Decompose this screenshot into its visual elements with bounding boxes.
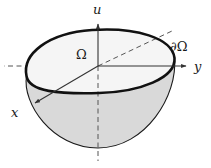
u-axis-label: u [93,3,101,16]
figure-container: u y x Ω ∂Ω [0,0,211,168]
x-axis-label: x [11,106,18,119]
y-axis-label: y [194,60,201,73]
domain-omega-label: Ω [76,48,87,61]
boundary-omega-symbol: Ω [177,39,188,54]
boundary-omega-label: ∂Ω [170,40,188,53]
partial-symbol: ∂ [170,39,177,54]
paraboloid-diagram-svg [0,0,211,168]
